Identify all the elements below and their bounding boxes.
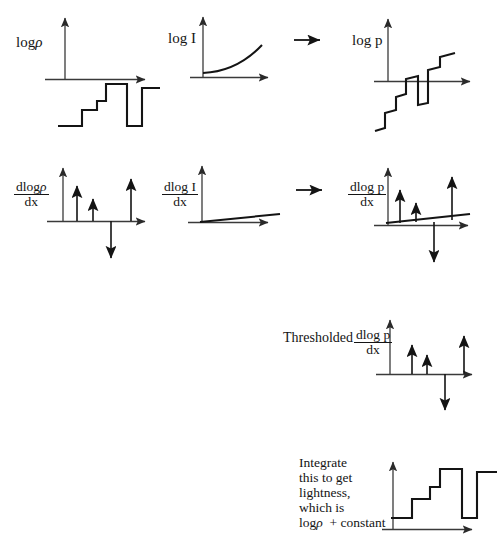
frac-numerator: dlogρ: [14, 180, 49, 194]
label-log-rho-text: log: [16, 34, 35, 50]
label-thresholded-frac: dlog p dx: [354, 328, 392, 358]
frac-denominator: dx: [354, 342, 392, 357]
lightness-step-curve: [391, 469, 497, 518]
frac-denominator: dx: [348, 194, 386, 209]
integrate-note-line-1: Integrate: [299, 455, 385, 470]
integrate-note-line-3: lightness,: [299, 485, 385, 500]
chart-reflectance-step: [45, 18, 160, 126]
label-dlog-rho-dx: dlogρ dx: [14, 180, 49, 210]
chart-d-image: [374, 168, 470, 262]
integrate-note-line-2: this to get: [299, 470, 385, 485]
reflectance-step-curve: [58, 84, 160, 126]
frac-denominator: dx: [162, 194, 198, 209]
integrate-note-line-5: logρ + constant: [299, 515, 385, 530]
chart-lightness: [382, 462, 497, 530]
label-log-I: log I: [168, 30, 196, 47]
chart-d-reflectance: [47, 168, 145, 258]
label-log-rho: logρ: [16, 34, 42, 51]
figure-canvas: [0, 0, 497, 547]
chart-d-illumination: [188, 166, 280, 223]
chart-illumination-log: [190, 17, 268, 78]
illumination-curve: [203, 45, 262, 73]
d-illumination-line: [200, 214, 280, 222]
frac-numerator: dlog p: [354, 328, 392, 342]
label-integrate-note: Integrate this to get lightness, which i…: [299, 455, 385, 531]
label-log-p: log p: [352, 32, 382, 49]
label-dlog-p-dx: dlog p dx: [348, 180, 386, 210]
illumination-ramp: [386, 214, 470, 223]
label-log-rho-symbol: ρ: [35, 34, 42, 50]
frac-numerator: dlog I: [162, 180, 198, 194]
frac-numerator: dlog p: [348, 180, 386, 194]
chart-image-log: [374, 19, 470, 131]
frac-denominator: dx: [14, 194, 49, 209]
image-log-curve: [375, 53, 455, 131]
label-dlog-I-dx: dlog I dx: [162, 180, 198, 210]
label-thresholded: Thresholded: [283, 330, 353, 346]
integrate-note-line-4: which is: [299, 500, 385, 515]
